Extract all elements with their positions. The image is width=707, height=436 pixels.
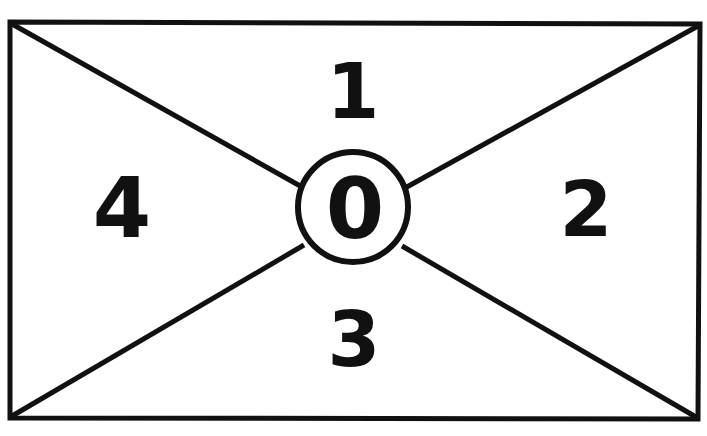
label-region-right: 2 (560, 165, 613, 254)
label-region-bottom: 3 (328, 295, 381, 384)
label-center: 0 (326, 160, 384, 258)
label-region-left: 4 (93, 159, 151, 257)
zone-diagram: 0 1 2 3 4 (0, 0, 707, 436)
label-region-top: 1 (327, 47, 380, 136)
